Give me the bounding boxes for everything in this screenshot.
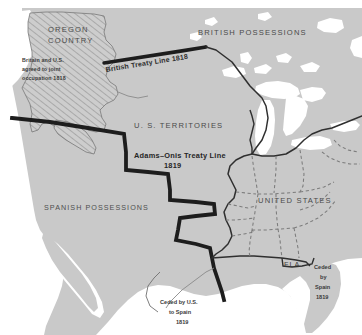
note-florida-line1: Ceded xyxy=(314,264,332,270)
label-adams-onis-line2: 1819 xyxy=(164,161,181,170)
note-florida-line2: by xyxy=(320,274,327,280)
label-united-states: UNITED STATES xyxy=(258,196,332,205)
historical-map: OREGON COUNTRY Britain and U.S. agreed t… xyxy=(0,0,362,335)
note-oregon-line3: occupation 1818 xyxy=(22,75,66,81)
annotation-ceded-to-spain-line1: Ceded by U.S. xyxy=(160,299,198,305)
label-spanish-possessions: SPANISH POSSESSIONS xyxy=(44,203,149,212)
label-us-territories: U. S. TERRITORIES xyxy=(134,121,223,130)
label-oregon-country-line1: OREGON xyxy=(48,25,89,34)
label-adams-onis-line1: Adams–Onis Treaty Line xyxy=(134,151,226,160)
label-florida: FLA. xyxy=(284,260,304,269)
annotation-ceded-to-spain-line2: to Spain xyxy=(169,309,192,315)
note-florida-line3: Spain xyxy=(315,284,331,290)
map-canvas: OREGON COUNTRY Britain and U.S. agreed t… xyxy=(0,0,362,335)
note-oregon-line1: Britain and U.S. xyxy=(22,57,64,63)
note-oregon-line2: agreed to joint xyxy=(22,66,61,72)
note-florida-line4: 1819 xyxy=(316,294,328,300)
label-british-possessions: BRITISH POSSESSIONS xyxy=(198,28,307,37)
label-oregon-country-line2: COUNTRY xyxy=(48,36,93,45)
annotation-ceded-to-spain-line3: 1819 xyxy=(176,319,188,325)
